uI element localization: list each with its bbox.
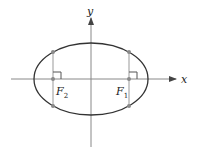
y-axis-label: y [86,5,94,18]
focus-label-f1: F1 [115,85,128,100]
point-f1-top [127,50,131,54]
focus-label-f2-main: F [55,85,64,98]
point-f2-top [51,50,55,54]
focus-label-f2-sub: 2 [64,92,68,100]
focus-label-f1-main: F [115,85,124,98]
ellipse-diagram: y x F2 F1 [0,0,197,151]
point-f1-bottom [127,104,131,108]
x-axis-label: x [181,73,188,86]
focus-label-f2: F2 [55,85,68,100]
point-f2-bottom [51,104,55,108]
point-f1 [127,77,131,81]
point-f2 [51,77,55,81]
focus-label-f1-sub: 1 [124,92,128,100]
